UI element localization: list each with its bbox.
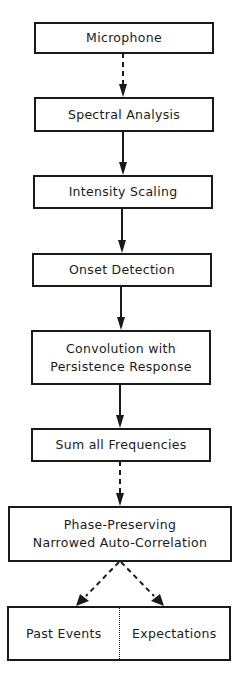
arrow-phase-to-past-events xyxy=(76,562,119,606)
arrow-microphone-to-spectral xyxy=(119,53,127,97)
node-label: Expectations xyxy=(132,626,216,641)
arrow-intensity-to-onset xyxy=(118,208,126,253)
node-onset-detection: Onset Detection xyxy=(32,253,212,287)
node-phase-preserving: Phase-Preserving Narrowed Auto-Correlati… xyxy=(8,506,232,562)
node-label: Microphone xyxy=(86,29,162,47)
node-label: Onset Detection xyxy=(69,261,175,279)
arrow-convolution-to-sum xyxy=(116,384,124,428)
node-convolution: Convolution with Persistence Response xyxy=(31,330,211,385)
arrow-phase-to-expectations xyxy=(121,562,164,606)
node-sum-all-frequencies: Sum all Frequencies xyxy=(31,428,211,462)
node-label: Spectral Analysis xyxy=(68,106,180,124)
node-label: Sum all Frequencies xyxy=(55,436,186,454)
node-microphone: Microphone xyxy=(34,22,214,54)
node-past-events: Past Events xyxy=(9,608,119,659)
node-label: Intensity Scaling xyxy=(69,183,178,201)
node-spectral-analysis: Spectral Analysis xyxy=(34,97,214,132)
node-label: Past Events xyxy=(26,626,102,641)
node-label-line1: Convolution with xyxy=(66,340,176,358)
arrow-spectral-to-intensity xyxy=(119,131,127,175)
node-label-line2: Narrowed Auto-Correlation xyxy=(33,534,207,552)
node-output: Past Events Expectations xyxy=(7,606,231,661)
node-expectations: Expectations xyxy=(120,608,230,659)
node-label-line1: Phase-Preserving xyxy=(64,516,177,534)
node-intensity-scaling: Intensity Scaling xyxy=(33,175,213,209)
node-label-line2: Persistence Response xyxy=(50,358,192,376)
arrow-sum-to-phase xyxy=(116,461,124,506)
arrow-onset-to-convolution xyxy=(117,286,125,330)
